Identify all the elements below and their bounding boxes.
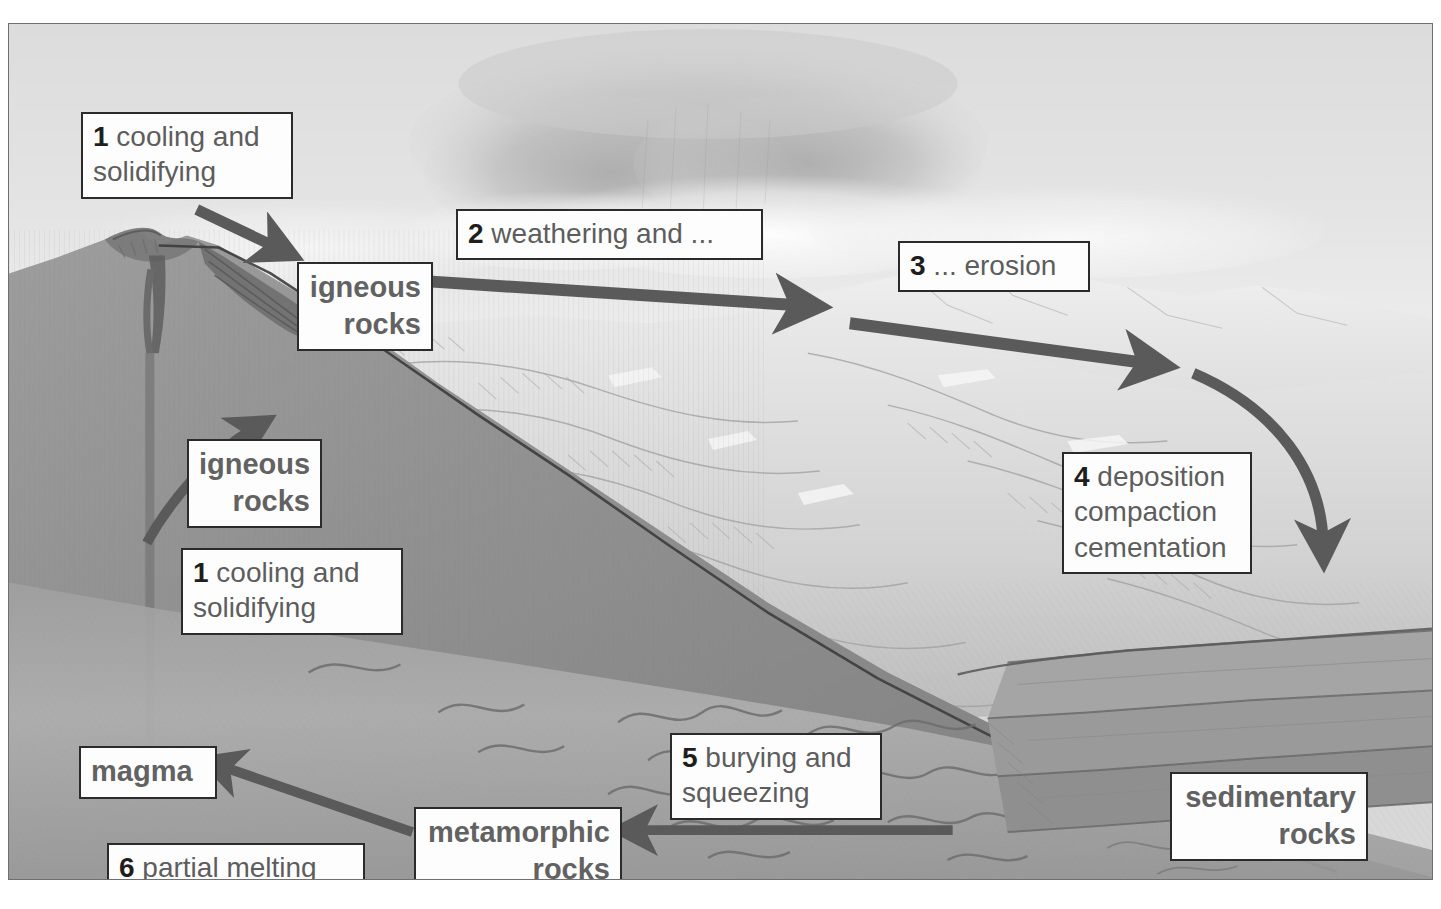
label-text-igneous-top: igneous rocks — [310, 271, 421, 340]
label-magma: magma — [79, 746, 217, 799]
callout-cooling-solidifying-1: 1 cooling and solidifying — [81, 112, 293, 199]
step-text-burying: burying and squeezing — [682, 742, 852, 808]
step-number-1b: 1 — [193, 557, 209, 588]
label-text-sedimentary: sedimentary rocks — [1185, 781, 1356, 850]
step-number-1: 1 — [93, 121, 109, 152]
step-text-partial-melting: partial melting — [135, 852, 317, 880]
step-number-6: 6 — [119, 852, 135, 880]
label-sedimentary-rocks: sedimentary rocks — [1170, 772, 1368, 861]
callout-erosion: 3 ... erosion — [898, 241, 1090, 292]
callout-weathering: 2 weathering and ... — [456, 209, 763, 260]
step-text-deposition: deposition compaction cementation — [1074, 461, 1227, 563]
label-text-metamorphic: metamorphic rocks — [428, 816, 610, 880]
label-text-magma: magma — [91, 755, 193, 787]
step-text-erosion: ... erosion — [926, 250, 1057, 281]
step-number-2: 2 — [468, 218, 484, 249]
callout-cooling-solidifying-2: 1 cooling and solidifying — [181, 548, 403, 635]
label-igneous-rocks-intrusive: igneous rocks — [187, 439, 322, 528]
callout-burying-squeezing: 5 burying and squeezing — [670, 733, 882, 820]
step-text-cooling-2: cooling and solidifying — [193, 557, 360, 623]
step-text-weathering: weathering and ... — [484, 218, 714, 249]
step-text-cooling-1: cooling and solidifying — [93, 121, 260, 187]
step-number-5: 5 — [682, 742, 698, 773]
callout-partial-melting: 6 partial melting — [107, 843, 365, 880]
step-number-3: 3 — [910, 250, 926, 281]
illustration-plate: 1 cooling and solidifying 2 weathering a… — [8, 23, 1433, 880]
label-text-igneous-mid: igneous rocks — [199, 448, 310, 517]
label-igneous-rocks-surface: igneous rocks — [297, 262, 433, 351]
step-number-4: 4 — [1074, 461, 1090, 492]
rock-cycle-diagram: 1 cooling and solidifying 2 weathering a… — [0, 0, 1441, 909]
callout-deposition: 4 deposition compaction cementation — [1062, 452, 1252, 574]
label-metamorphic-rocks: metamorphic rocks — [414, 807, 622, 880]
